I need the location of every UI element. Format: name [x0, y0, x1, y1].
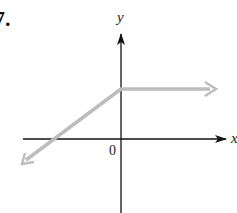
graph-line	[26, 89, 210, 160]
x-axis-label: x	[231, 130, 237, 147]
graph-figure	[0, 0, 237, 213]
origin-label: 0	[109, 143, 116, 159]
y-axis-label: y	[117, 9, 124, 26]
